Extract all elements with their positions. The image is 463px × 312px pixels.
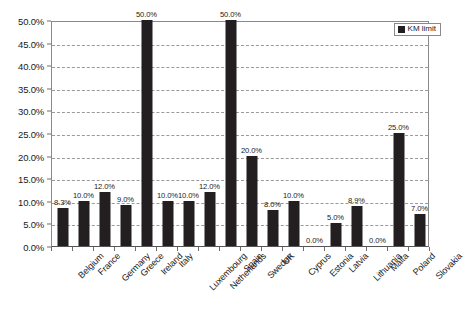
bar-value-label: 10.0%	[157, 191, 178, 200]
bar-slot: 10.0%	[157, 22, 178, 246]
bar	[78, 201, 89, 246]
bar	[288, 201, 299, 246]
y-axis-tick-label: 5.0%	[23, 219, 44, 230]
bar	[330, 223, 341, 246]
bar	[204, 192, 215, 246]
y-axis-tick-label: 0.0%	[23, 242, 44, 253]
bar-slot: 10.0%	[73, 22, 94, 246]
bar	[99, 192, 110, 246]
bar-slot: 10.0%	[283, 22, 304, 246]
bar	[351, 206, 362, 246]
bar-slot: 8.3%	[52, 22, 73, 246]
bar-value-label: 10.0%	[283, 191, 304, 200]
bar-value-label: 8.9%	[348, 196, 365, 205]
bar	[393, 133, 404, 246]
bar	[120, 205, 131, 246]
bar-value-label: 0.0%	[306, 236, 323, 245]
y-axis-tick-label: 40.0%	[18, 61, 44, 72]
bar-value-label: 50.0%	[136, 10, 157, 19]
x-axis-category-label: Cyprus	[306, 251, 333, 278]
legend-swatch-km-limit	[398, 26, 405, 33]
bar-value-label: 0.0%	[369, 236, 386, 245]
bar	[246, 156, 257, 246]
bar-value-label: 12.0%	[94, 182, 115, 191]
bar-slot: 50.0%	[220, 22, 241, 246]
bar-value-label: 10.0%	[178, 191, 199, 200]
y-axis-tick-label: 20.0%	[18, 151, 44, 162]
bar-slot: 12.0%	[199, 22, 220, 246]
bar-slot: 10.0%	[178, 22, 199, 246]
chart-legend: KM limit	[394, 23, 441, 36]
plot-area: 8.3%10.0%12.0%9.0%50.0%10.0%10.0%12.0%50…	[51, 21, 429, 247]
bar-series-km-limit: 8.3%10.0%12.0%9.0%50.0%10.0%10.0%12.0%50…	[52, 22, 428, 246]
bar-slot: 9.0%	[115, 22, 136, 246]
bar-slot: 8.9%	[346, 22, 367, 246]
bar	[162, 201, 173, 246]
y-axis-tick-label: 15.0%	[18, 174, 44, 185]
bar-value-label: 5.0%	[327, 213, 344, 222]
legend-label-km-limit: KM limit	[408, 25, 436, 33]
bar	[141, 20, 152, 246]
y-axis-tick-label: 25.0%	[18, 129, 44, 140]
bar-slot: 12.0%	[94, 22, 115, 246]
x-axis-category-label: Slovakia	[433, 251, 463, 281]
bar-value-label: 50.0%	[220, 10, 241, 19]
bar	[414, 214, 425, 246]
bar-slot: 0.0%	[304, 22, 325, 246]
y-axis-tick-label: 45.0%	[18, 38, 44, 49]
bar-slot: 20.0%	[241, 22, 262, 246]
y-axis: 0.0%5.0%10.0%15.0%20.0%25.0%30.0%35.0%40…	[0, 0, 51, 312]
x-axis-labels: BelgiumFranceGermanyGreeceIrelandItalyLu…	[51, 251, 429, 312]
bar-value-label: 12.0%	[199, 182, 220, 191]
bar-value-label: 9.0%	[117, 195, 134, 204]
bar-value-label: 8.3%	[54, 198, 71, 207]
y-axis-tick-label: 35.0%	[18, 83, 44, 94]
bar-value-label: 10.0%	[73, 191, 94, 200]
y-axis-tick-label: 50.0%	[18, 16, 44, 27]
bar-slot: 7.0%	[409, 22, 430, 246]
bar	[183, 201, 194, 246]
bar	[57, 208, 68, 246]
bar-value-label: 7.0%	[411, 204, 428, 213]
bar-value-label: 20.0%	[241, 146, 262, 155]
y-axis-tick-label: 10.0%	[18, 196, 44, 207]
bar-slot: 50.0%	[136, 22, 157, 246]
bar-slot: 8.0%	[262, 22, 283, 246]
bar	[267, 210, 278, 246]
bar-slot: 5.0%	[325, 22, 346, 246]
y-axis-tick-label: 30.0%	[18, 106, 44, 117]
bar-value-label: 25.0%	[388, 123, 409, 132]
bar-slot: 0.0%	[367, 22, 388, 246]
bar-slot: 25.0%	[388, 22, 409, 246]
bar	[225, 20, 236, 246]
bar-value-label: 8.0%	[264, 200, 281, 209]
